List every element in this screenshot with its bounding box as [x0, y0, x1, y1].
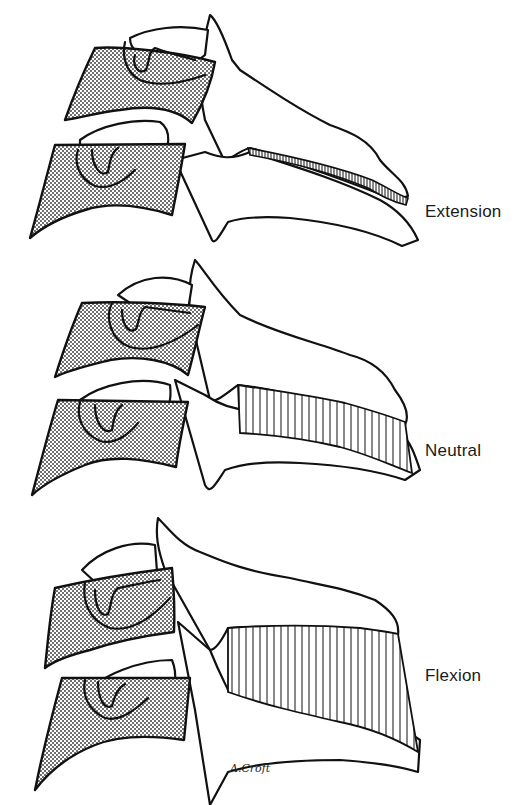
neutral-vertebrae-drawing: [0, 255, 525, 510]
lower-vertebral-body: [30, 144, 185, 238]
upper-vertebral-body: [45, 568, 174, 668]
panel-flexion: Flexion: [0, 510, 525, 805]
lower-vertebral-body: [35, 678, 190, 790]
label-neutral: Neutral: [425, 441, 481, 461]
label-flexion: Flexion: [425, 666, 481, 686]
panel-neutral: Neutral: [0, 255, 525, 510]
flexion-vertebrae-drawing: [0, 510, 525, 805]
artist-signature: A.Croft: [230, 762, 270, 775]
lower-vertebral-body: [32, 400, 188, 495]
upper-vertebral-body: [55, 302, 205, 377]
label-extension: Extension: [425, 202, 501, 222]
panel-extension: Extension: [0, 0, 525, 255]
